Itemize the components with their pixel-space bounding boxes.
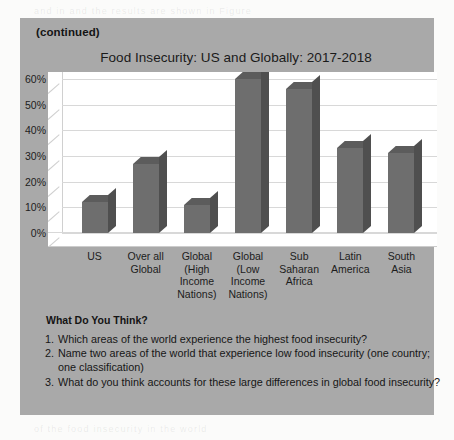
chart-bar-side-face (363, 134, 371, 233)
y-axis-tick-label: 0% (31, 227, 46, 239)
x-axis-category-label: Global(LowIncomeNations) (221, 250, 275, 300)
question-text: What do you think accounts for these lar… (58, 376, 440, 388)
chart-bar-side-face (414, 139, 422, 233)
chart-bar-side-face (108, 188, 116, 233)
y-axis-tick-label: 20% (25, 176, 46, 188)
chart-floor (48, 232, 437, 247)
chart-depth-line (48, 109, 60, 120)
chart-depth-line (48, 83, 60, 94)
question-number: 2. (38, 346, 54, 360)
question-text: Name two areas of the world that experie… (58, 347, 430, 373)
chart-depth-line (48, 212, 60, 223)
x-axis-category-label: US (68, 250, 122, 263)
y-axis-tick-label: 30% (25, 150, 46, 162)
question-item: 1.Which areas of the world experience th… (58, 332, 448, 346)
x-axis-category-label: SouthAsia (374, 250, 428, 275)
questions-list: 1.Which areas of the world experience th… (36, 332, 448, 389)
content-panel: (continued) Food Insecurity: US and Glob… (20, 18, 434, 415)
page-root: and in and the results are shown in Figu… (0, 0, 454, 440)
y-axis-tick-label: 50% (25, 99, 46, 111)
x-axis-category-label: Over allGlobal (119, 250, 173, 275)
x-axis-category-label: LatinAmerica (323, 250, 377, 275)
chart-depth-line (48, 135, 60, 146)
chart-bar-side-face (312, 75, 320, 233)
x-axis-category-label: SubSaharanAfrica (272, 250, 326, 288)
chart-bar-side-face (210, 191, 218, 233)
chart-y-axis: 60%50%40%30%20%10%0% (20, 72, 48, 247)
question-number: 3. (38, 375, 54, 389)
bleedthrough-text-top: and in and the results are shown in Figu… (34, 6, 252, 16)
question-text: Which areas of the world experience the … (58, 333, 367, 345)
chart-bar (184, 205, 210, 233)
chart-bar (337, 148, 363, 233)
chart-bar (133, 164, 159, 233)
bleedthrough-text-bottom: of the food insecurity in the world (34, 424, 208, 434)
x-axis-category-label: Global(HighIncomeNations) (170, 250, 224, 300)
question-item: 3.What do you think accounts for these l… (58, 375, 448, 389)
chart-depth-line (48, 186, 60, 197)
chart-bar (82, 202, 108, 233)
chart-title: Food Insecurity: US and Globally: 2017-2… (20, 50, 434, 65)
what-do-you-think-heading: What Do You Think? (46, 314, 148, 326)
y-axis-tick-label: 40% (25, 124, 46, 136)
chart-depth-line (48, 160, 60, 171)
chart-gridline (62, 233, 437, 234)
chart-bar-side-face (159, 150, 167, 233)
y-axis-tick-label: 60% (25, 73, 46, 85)
chart-plot-area (48, 72, 437, 247)
chart-floor-front-edge (48, 246, 437, 247)
y-axis-line (62, 72, 63, 233)
chart-bar (235, 79, 261, 233)
question-item: 2.Name two areas of the world that exper… (58, 346, 448, 374)
question-number: 1. (38, 332, 54, 346)
y-axis-tick-label: 10% (25, 201, 46, 213)
continued-label: (continued) (36, 26, 100, 38)
chart-bar (286, 89, 312, 233)
chart-bar (388, 153, 414, 233)
chart-bar-side-face (261, 72, 269, 233)
